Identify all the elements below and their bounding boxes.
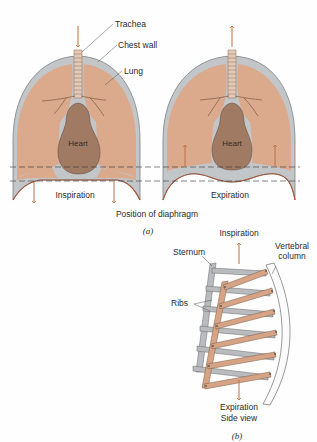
chest-inspiration [13,50,140,200]
chest-expiration [163,50,295,200]
label-inspiration-b: Inspiration [219,228,258,238]
rib-cage [193,263,290,405]
label-lung: Lung [124,66,143,76]
label-column: column [278,251,306,261]
label-inspiration-a: Inspiration [55,190,94,200]
label-side-view: Side view [221,413,258,423]
label-trachea: Trachea [115,19,146,29]
label-heart-left: Heart [68,139,88,148]
caption-a: (a) [143,226,154,236]
respiration-diagram: Trachea Chest wall Lung Heart Heart Insp… [0,0,317,442]
label-position-of-diaphragm: Position of diaphragm [116,209,198,219]
caption-b: (b) [232,431,243,441]
label-heart-right: Heart [222,139,242,148]
label-vertebral: Vertebral [275,241,309,251]
label-chest-wall: Chest wall [118,40,157,50]
label-expiration-a: Expiration [211,190,249,200]
label-ribs: Ribs [171,298,188,308]
label-expiration-b: Expiration [220,402,258,412]
label-sternum: Sternum [173,247,205,257]
